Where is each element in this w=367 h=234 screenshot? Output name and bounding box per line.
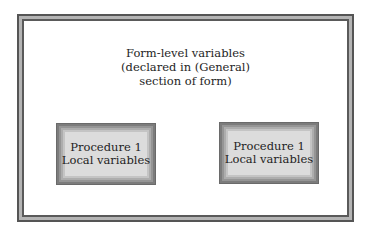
form-scope-frame: Form-level variables (declared in (Gener… — [17, 14, 354, 222]
form-level-variables-label: Form-level variables (declared in (Gener… — [19, 46, 352, 88]
form-title-line-3: section of form) — [19, 74, 352, 88]
form-title-line-2: (declared in (General) — [19, 60, 352, 74]
procedure-box-right: Procedure 1 Local variables — [219, 122, 319, 184]
form-title-line-1: Form-level variables — [19, 46, 352, 60]
procedure-local-variables-label: Local variables — [62, 154, 150, 167]
procedure-local-variables-label: Local variables — [225, 153, 313, 166]
procedure-box-left: Procedure 1 Local variables — [56, 123, 156, 185]
